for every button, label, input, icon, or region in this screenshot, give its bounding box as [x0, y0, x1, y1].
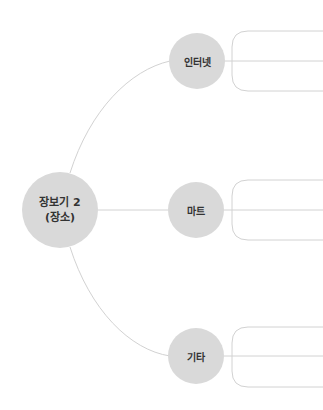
branch-label: 마트	[187, 203, 205, 218]
root-subtitle: (장소)	[39, 210, 80, 225]
branch-label: 인터넷	[184, 54, 211, 69]
root-title: 장보기 2	[39, 195, 80, 210]
bracket-etc	[232, 327, 323, 387]
branch-node-internet[interactable]: 인터넷	[169, 33, 225, 89]
branch-node-etc[interactable]: 기타	[168, 328, 224, 384]
branch-label: 기타	[187, 349, 205, 364]
connector-internet	[70, 61, 170, 173]
branch-node-mart[interactable]: 마트	[168, 182, 224, 238]
connector-etc	[70, 247, 170, 356]
root-node[interactable]: 장보기 2 (장소)	[22, 172, 98, 248]
